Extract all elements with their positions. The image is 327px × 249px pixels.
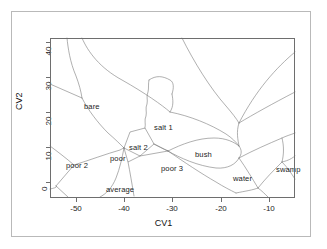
x-tick-label--30: -30: [157, 204, 187, 213]
screenshot-root: CV2 0 10 20 30 40 -50 -40 -30 -20 -10 CV…: [0, 0, 327, 249]
x-tick-label--50: -50: [61, 204, 91, 213]
plot-area: bare salt 1 salt 2 poor poor 2 poor 3 av…: [50, 38, 295, 198]
plot-box-border: [50, 38, 295, 198]
x-tick-label--20: -20: [206, 204, 236, 213]
x-tick-mark--30: [172, 198, 173, 202]
x-tick-mark--20: [221, 198, 222, 202]
y-axis-title: CV2: [14, 92, 24, 110]
y-tick-label-0: 0: [40, 187, 49, 191]
x-axis-title: CV1: [0, 218, 327, 228]
x-tick-mark--10: [269, 198, 270, 202]
x-tick-label--10: -10: [254, 204, 284, 213]
x-tick-mark--40: [124, 198, 125, 202]
x-tick-label--40: -40: [109, 204, 139, 213]
x-tick-mark--50: [76, 198, 77, 202]
